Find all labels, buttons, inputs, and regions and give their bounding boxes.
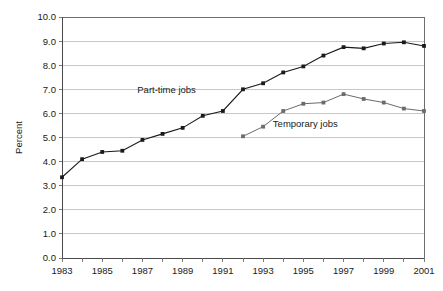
series-1: [60, 40, 426, 179]
data-point-marker: [402, 107, 406, 111]
data-point-marker: [120, 149, 124, 153]
data-point-marker: [362, 97, 366, 101]
series-line: [62, 42, 424, 177]
data-point-marker: [301, 65, 305, 69]
data-point-marker: [301, 102, 305, 106]
x-axis-tick-marks: [62, 258, 424, 262]
x-tick-label: 1991: [212, 265, 233, 276]
y-tick-label: 0.0: [43, 252, 56, 263]
y-tick-label: 9.0: [43, 36, 56, 47]
data-point-marker: [161, 132, 165, 136]
y-tick-label: 4.0: [43, 156, 56, 167]
x-tick-label: 1999: [373, 265, 394, 276]
series-label-2: Temporary jobs: [273, 118, 338, 129]
series-label-1: Part-time jobs: [137, 84, 196, 95]
x-tick-label: 1983: [51, 265, 72, 276]
data-point-marker: [402, 40, 406, 44]
y-tick-label: 2.0: [43, 204, 56, 215]
x-tick-label: 1989: [172, 265, 193, 276]
data-point-marker: [241, 134, 245, 138]
gridlines: [62, 17, 424, 234]
y-tick-label: 5.0: [43, 132, 56, 143]
data-point-marker: [80, 157, 84, 161]
data-point-marker: [261, 125, 265, 129]
data-point-marker: [382, 101, 386, 105]
y-tick-label: 7.0: [43, 84, 56, 95]
y-tick-label: 6.0: [43, 108, 56, 119]
data-point-marker: [342, 92, 346, 96]
data-point-marker: [100, 150, 104, 154]
x-tick-label: 1987: [132, 265, 153, 276]
data-point-marker: [141, 138, 145, 142]
series-2: [241, 92, 426, 138]
series-line: [243, 94, 424, 136]
data-point-marker: [422, 44, 426, 48]
y-tick-label: 8.0: [43, 60, 56, 71]
data-point-marker: [181, 126, 185, 130]
data-point-marker: [362, 46, 366, 50]
data-point-marker: [422, 109, 426, 113]
data-point-marker: [382, 42, 386, 46]
y-axis-title: Percent: [13, 121, 24, 154]
x-tick-label: 1985: [92, 265, 113, 276]
data-point-marker: [201, 114, 205, 118]
data-point-marker: [60, 175, 64, 179]
data-point-marker: [322, 54, 326, 58]
data-point-marker: [241, 87, 245, 91]
x-axis-tick-labels: 1983198519871989199119931995199719992001: [51, 265, 434, 276]
data-point-marker: [261, 81, 265, 85]
series-annotations: Part-time jobsTemporary jobs: [137, 84, 338, 129]
data-point-marker: [221, 109, 225, 113]
x-tick-label: 2001: [413, 265, 434, 276]
y-tick-label: 10.0: [38, 11, 57, 22]
x-tick-label: 1997: [333, 265, 354, 276]
data-point-marker: [281, 71, 285, 75]
data-point-marker: [342, 45, 346, 49]
y-axis-tick-labels: 0.01.02.03.04.05.06.07.08.09.010.0: [38, 11, 63, 263]
data-point-marker: [322, 101, 326, 105]
data-point-marker: [281, 109, 285, 113]
x-tick-label: 1995: [293, 265, 314, 276]
line-chart: 0.01.02.03.04.05.06.07.08.09.010.0 19831…: [0, 0, 443, 291]
y-axis-title-text: Percent: [13, 121, 24, 154]
chart-container: 0.01.02.03.04.05.06.07.08.09.010.0 19831…: [0, 0, 443, 291]
x-tick-label: 1993: [253, 265, 274, 276]
y-tick-label: 3.0: [43, 180, 56, 191]
data-series-group: [60, 40, 426, 179]
y-tick-label: 1.0: [43, 228, 56, 239]
